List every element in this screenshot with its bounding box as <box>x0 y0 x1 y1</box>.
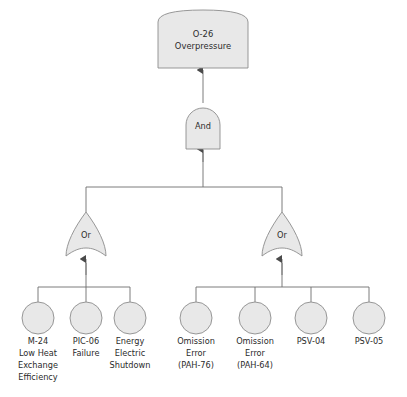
top-event-node[interactable]: O-26 Overpressure <box>158 10 248 68</box>
top-event-line1: O-26 <box>193 29 214 39</box>
and-gate[interactable]: And <box>186 108 220 149</box>
basic-event-circle <box>70 302 102 334</box>
basic-event-left-2[interactable]: PIC-06 Failure <box>70 302 102 358</box>
basic-event-label-line: (PAH-64) <box>237 360 273 370</box>
basic-event-label-line: Error <box>186 348 207 358</box>
basic-event-left-1[interactable]: M-24 Low Heat Exchange Efficiency <box>18 302 58 382</box>
basic-event-right-3[interactable]: PSV-04 <box>295 302 327 346</box>
fault-tree-canvas: O-26 Overpressure And Or Or M-24 Low Hea… <box>0 0 407 397</box>
and-gate-label: And <box>195 121 211 131</box>
basic-event-circle <box>239 302 271 334</box>
or-gate-left-label: Or <box>81 230 91 240</box>
basic-event-label-line: Efficiency <box>18 372 58 382</box>
basic-event-label-line: Low Heat <box>19 348 58 358</box>
basic-event-circle <box>295 302 327 334</box>
basic-event-circle <box>22 302 54 334</box>
basic-event-label-line: (PAH-76) <box>178 360 214 370</box>
basic-event-left-3[interactable]: Energy Electric Shutdown <box>110 302 151 370</box>
basic-event-label-line: Electric <box>115 348 145 358</box>
top-event-shape <box>158 10 248 68</box>
basic-event-circle <box>114 302 146 334</box>
basic-event-label-line: Failure <box>73 348 100 358</box>
basic-event-label-line: M-24 <box>28 336 48 346</box>
connectors <box>38 70 369 302</box>
basic-event-right-4[interactable]: PSV-05 <box>353 302 385 346</box>
basic-event-label-line: Energy <box>116 336 145 346</box>
basic-event-label-line: Exchange <box>18 360 58 370</box>
or-gate-right[interactable]: Or <box>262 212 302 256</box>
basic-event-label-line: Error <box>245 348 266 358</box>
or-gate-left[interactable]: Or <box>66 212 106 256</box>
fault-tree-svg: O-26 Overpressure And Or Or M-24 Low Hea… <box>0 0 407 397</box>
basic-event-right-2[interactable]: Omission Error (PAH-64) <box>236 302 274 370</box>
basic-event-label-line: Omission <box>236 336 274 346</box>
basic-event-right-1[interactable]: Omission Error (PAH-76) <box>177 302 215 370</box>
basic-event-label-line: PSV-05 <box>355 336 384 346</box>
basic-event-label-line: PIC-06 <box>73 336 99 346</box>
basic-event-label-line: Omission <box>177 336 215 346</box>
top-event-line2: Overpressure <box>175 41 231 51</box>
basic-event-circle <box>353 302 385 334</box>
basic-event-label-line: Shutdown <box>110 360 151 370</box>
or-gate-right-label: Or <box>277 230 287 240</box>
basic-event-circle <box>180 302 212 334</box>
basic-event-label-line: PSV-04 <box>297 336 326 346</box>
